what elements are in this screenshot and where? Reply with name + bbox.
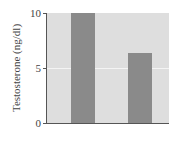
tick-label-5: 5	[27, 63, 41, 74]
plot-area	[46, 13, 169, 123]
bar-2	[128, 53, 152, 123]
tick-0	[43, 123, 46, 124]
tick-label-0: 0	[27, 118, 41, 129]
x-axis	[46, 123, 169, 124]
tick-5	[43, 68, 46, 69]
y-axis-label: Testosterone (ng/dl)	[10, 24, 22, 112]
tick-label-10: 10	[27, 8, 41, 19]
bar-1	[71, 13, 95, 123]
tick-10	[43, 13, 46, 14]
y-axis	[46, 13, 47, 124]
